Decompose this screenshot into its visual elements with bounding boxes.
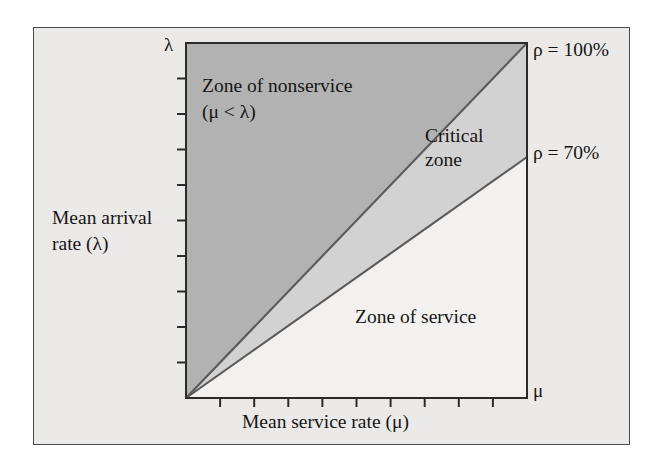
- x-axis-symbol: μ: [533, 379, 543, 403]
- zone-nonservice-label-line2: (μ < λ): [202, 100, 256, 125]
- rho-100-annotation: ρ = 100%: [533, 38, 609, 63]
- y-axis-ticks: [177, 79, 186, 363]
- x-axis-title: Mean service rate (μ): [242, 410, 409, 435]
- figure-root: λ μ Zone of nonservice (μ < λ) Critical …: [0, 0, 656, 465]
- y-axis-symbol: λ: [164, 33, 173, 57]
- rho-70-annotation: ρ = 70%: [533, 141, 599, 166]
- y-axis-title-line2: rate (λ): [52, 232, 109, 257]
- zone-critical-label-line1: Critical: [425, 124, 483, 149]
- zone-nonservice-label-line1: Zone of nonservice: [202, 74, 353, 99]
- zone-service-label: Zone of service: [355, 305, 476, 330]
- zone-critical-label-line2: zone: [425, 148, 462, 173]
- x-axis-ticks: [220, 398, 493, 407]
- y-axis-title-line1: Mean arrival: [52, 206, 152, 231]
